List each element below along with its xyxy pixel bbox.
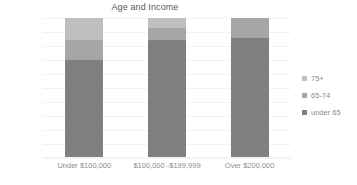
chart-container: Age and Income Under $100,000$100,000 -$… — [0, 0, 357, 185]
bar-group — [65, 18, 103, 158]
stacked-bar[interactable] — [231, 18, 269, 158]
legend-label: 75+ — [311, 74, 324, 83]
x-axis-tick-label: Over $200,000 — [208, 161, 291, 171]
stacked-bar[interactable] — [148, 18, 186, 158]
legend-label: under 65 — [311, 108, 341, 117]
chart-legend: 75+65-74under 65 — [302, 70, 357, 121]
bar-segment[interactable] — [65, 60, 103, 158]
bar-group — [148, 18, 186, 158]
legend-swatch-icon — [302, 110, 307, 115]
gridline — [43, 158, 291, 159]
legend-item[interactable]: 75+ — [302, 70, 357, 87]
bar-segment[interactable] — [148, 40, 186, 158]
x-axis: Under $100,000$100,000 -$199,999Over $20… — [43, 161, 291, 177]
bar-segment[interactable] — [231, 38, 269, 158]
legend-swatch-icon — [302, 93, 307, 98]
bar-segment[interactable] — [65, 18, 103, 40]
chart-title: Age and Income — [0, 2, 290, 12]
x-axis-line — [43, 157, 291, 158]
legend-swatch-icon — [302, 76, 307, 81]
plot-area — [43, 18, 291, 158]
bar-segment[interactable] — [148, 28, 186, 41]
bar-group — [231, 18, 269, 158]
legend-label: 65-74 — [311, 91, 330, 100]
legend-item[interactable]: under 65 — [302, 104, 357, 121]
x-axis-tick-label: Under $100,000 — [43, 161, 126, 171]
legend-item[interactable]: 65-74 — [302, 87, 357, 104]
bar-segment[interactable] — [231, 18, 269, 38]
stacked-bar[interactable] — [65, 18, 103, 158]
y-axis — [0, 18, 40, 158]
x-axis-tick-label: $100,000 -$199,999 — [126, 161, 209, 171]
bar-segment[interactable] — [148, 18, 186, 28]
bar-segment[interactable] — [65, 40, 103, 60]
